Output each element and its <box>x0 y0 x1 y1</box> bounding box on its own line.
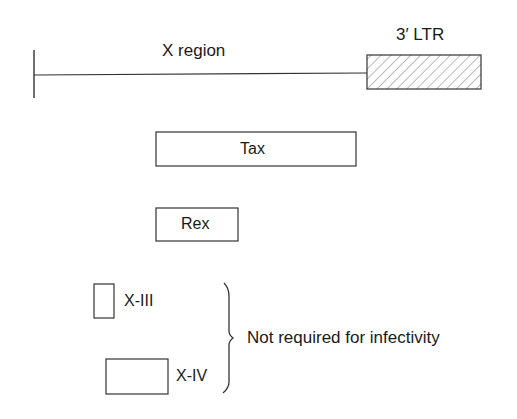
x-iii-box <box>94 284 114 318</box>
ltr-label: 3′ LTR <box>396 27 444 43</box>
ltr-box <box>367 55 481 89</box>
x-region-label: X region <box>162 43 225 59</box>
x-iv-label: X-IV <box>176 368 207 384</box>
diagram-canvas <box>0 0 517 419</box>
x-region-line <box>34 73 367 75</box>
brace-icon <box>223 283 233 393</box>
x-iv-box <box>106 359 168 394</box>
rex-label: Rex <box>181 216 209 232</box>
x-iii-label: X-III <box>124 293 153 309</box>
not-required-annotation: Not required for infectivity <box>247 330 440 346</box>
tax-label: Tax <box>240 141 265 157</box>
